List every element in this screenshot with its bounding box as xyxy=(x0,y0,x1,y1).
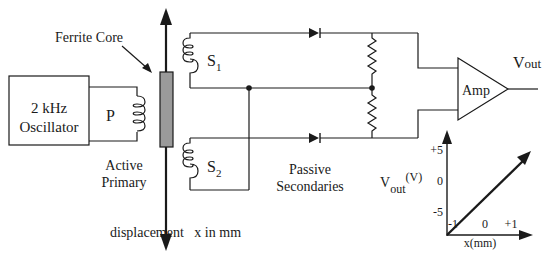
oscillator-label-freq: 2 kHz xyxy=(31,100,68,116)
primary-coil-icon xyxy=(133,96,145,131)
passive-secondaries-label-2: Secondaries xyxy=(276,179,344,194)
y-tick-pos5: +5 xyxy=(430,143,443,157)
graph-y-label: Vout(V) xyxy=(380,170,422,196)
displacement-label: displacement x in mm xyxy=(110,225,241,240)
active-primary-label-2: Primary xyxy=(101,175,146,190)
amplifier-label: Amp xyxy=(462,83,490,98)
ferrite-core xyxy=(160,72,173,147)
vout-vs-x-graph: +5 0 -5 -1 0 +1 x(mm) Vout(V) xyxy=(380,130,533,250)
s1-label: S1 xyxy=(207,52,221,73)
diode-1-icon xyxy=(309,28,320,38)
oscillator-label-name: Oscillator xyxy=(19,119,78,135)
resistor-1-icon xyxy=(368,33,376,88)
x-tick-pos1: +1 xyxy=(505,217,518,231)
y-axis-arrow-icon xyxy=(442,130,452,144)
resistor-2-icon xyxy=(368,88,376,138)
graph-line-arrow-icon xyxy=(517,151,531,165)
passive-secondaries-label-1: Passive xyxy=(289,162,331,177)
ferrite-pointer-arrow-icon xyxy=(122,46,152,73)
junction-dot-1 xyxy=(246,85,252,91)
x-axis-arrow-icon xyxy=(519,230,533,240)
secondary-coil-s1-icon xyxy=(183,33,198,88)
s2-label: S2 xyxy=(207,158,221,179)
diode-2-icon xyxy=(309,133,320,143)
y-tick-neg5: -5 xyxy=(433,205,443,219)
x-tick-0: 0 xyxy=(482,217,488,231)
graph-x-label: x(mm) xyxy=(464,236,497,250)
lvdt-diagram: 2 kHz Oscillator P Ferrite Core Active P… xyxy=(0,0,550,259)
ferrite-core-label: Ferrite Core xyxy=(55,30,123,45)
y-tick-0: 0 xyxy=(437,174,443,188)
primary-coil-label: P xyxy=(106,107,115,124)
x-tick-neg1: -1 xyxy=(448,217,458,231)
vout-label: Vout xyxy=(513,54,542,71)
oscillator-block: 2 kHz Oscillator xyxy=(9,76,89,145)
active-primary-label-1: Active xyxy=(105,158,142,173)
secondary-coil-s2-icon xyxy=(183,138,198,190)
